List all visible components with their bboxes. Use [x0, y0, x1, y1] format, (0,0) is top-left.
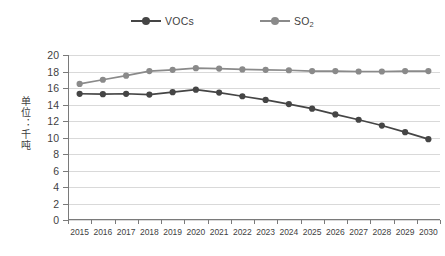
data-point — [263, 67, 269, 73]
x-tick-mark — [208, 220, 209, 224]
x-tick-mark — [115, 220, 116, 224]
data-point — [146, 68, 152, 74]
x-tick-mark — [184, 220, 185, 224]
data-point — [356, 117, 362, 123]
data-point — [402, 129, 408, 135]
legend-item-so2[interactable]: SO2 — [260, 15, 314, 27]
data-series-layer — [68, 55, 440, 220]
data-point — [216, 66, 222, 72]
data-point — [100, 77, 106, 83]
data-point — [402, 68, 408, 74]
x-tick-mark — [231, 220, 232, 224]
data-point — [356, 68, 362, 74]
x-tick-mark — [161, 220, 162, 224]
x-tick-mark — [440, 220, 441, 224]
data-point — [170, 89, 176, 95]
data-point — [425, 136, 431, 142]
legend-item-vocs[interactable]: VOCs — [131, 15, 194, 27]
legend-label-so2-main: SO — [294, 15, 310, 27]
y-tick-label: 14 — [35, 100, 59, 110]
y-tick-label: 18 — [35, 67, 59, 77]
data-point — [146, 92, 152, 98]
series-vocs — [77, 87, 432, 143]
series-line — [80, 68, 429, 84]
line-chart: VOCs SO2 单位：千吨 20181614121086420 2015201… — [0, 0, 445, 256]
x-tick-mark — [324, 220, 325, 224]
y-tick-label: 8 — [35, 149, 59, 159]
x-tick-mark — [254, 220, 255, 224]
legend-marker-so2-icon — [260, 16, 290, 26]
x-tick-mark — [138, 220, 139, 224]
data-point — [100, 91, 106, 97]
x-tick-mark — [301, 220, 302, 224]
x-tick-mark — [68, 220, 69, 224]
data-point — [193, 87, 199, 93]
x-tick-mark — [91, 220, 92, 224]
data-point — [309, 106, 315, 112]
y-tick-label: 10 — [35, 133, 59, 143]
data-point — [170, 67, 176, 73]
x-tick-label: 2030 — [411, 227, 445, 237]
chart-legend: VOCs SO2 — [0, 8, 445, 34]
data-point — [216, 89, 222, 95]
y-tick-label: 16 — [35, 83, 59, 93]
data-point — [309, 68, 315, 74]
data-point — [239, 93, 245, 99]
data-point — [286, 67, 292, 73]
y-tick-label: 4 — [35, 182, 59, 192]
legend-label-so2-subscript: 2 — [310, 20, 314, 29]
y-tick-label: 12 — [35, 116, 59, 126]
data-point — [239, 66, 245, 72]
data-point — [77, 81, 83, 87]
x-tick-mark — [347, 220, 348, 224]
x-tick-mark — [394, 220, 395, 224]
data-point — [123, 91, 129, 97]
legend-label-so2: SO2 — [294, 15, 314, 27]
x-tick-mark — [417, 220, 418, 224]
data-point — [332, 111, 338, 117]
data-point — [263, 97, 269, 103]
x-tick-mark — [277, 220, 278, 224]
legend-label-vocs: VOCs — [165, 15, 194, 27]
y-tick-label: 0 — [35, 215, 59, 225]
data-point — [193, 65, 199, 71]
y-tick-label: 2 — [35, 199, 59, 209]
data-point — [286, 101, 292, 107]
y-tick-label: 6 — [35, 166, 59, 176]
data-point — [379, 122, 385, 128]
data-point — [123, 73, 129, 79]
data-point — [425, 68, 431, 74]
data-point — [77, 91, 83, 97]
data-point — [379, 68, 385, 74]
series-line — [80, 90, 429, 139]
data-point — [332, 68, 338, 74]
x-tick-mark — [370, 220, 371, 224]
legend-marker-vocs-icon — [131, 16, 161, 26]
series-so — [77, 65, 432, 87]
y-tick-label: 20 — [35, 50, 59, 60]
y-axis-title: 单位：千吨 — [14, 96, 30, 151]
